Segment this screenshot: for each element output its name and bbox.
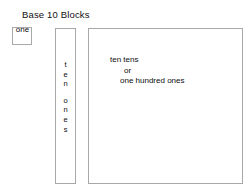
ones-block-label: one	[12, 25, 33, 34]
tens-label-letter: o	[63, 96, 67, 105]
hundreds-label-line-1: ten tens	[96, 55, 236, 66]
tens-block-label-spacer	[55, 89, 76, 96]
tens-label-letter: s	[64, 125, 68, 134]
hundreds-label-line-2: or	[96, 66, 236, 77]
tens-label-letter: t	[64, 60, 66, 69]
tens-block-label-top: ten	[63, 60, 67, 88]
hundreds-block-label: ten tens or one hundred ones	[96, 55, 236, 87]
tens-label-letter: e	[63, 115, 67, 124]
page-title: Base 10 Blocks	[22, 9, 90, 20]
tens-label-letter: n	[63, 105, 67, 114]
diagram-canvas: Base 10 Blocks one ten ones ten tens or …	[0, 0, 252, 195]
hundreds-block-shape	[88, 28, 243, 184]
tens-block-label-bottom: ones	[63, 96, 67, 134]
hundreds-label-line-3: one hundred ones	[96, 76, 236, 87]
tens-block-label: ten ones	[55, 60, 76, 134]
tens-label-letter: e	[63, 70, 67, 79]
tens-label-letter: n	[63, 79, 67, 88]
